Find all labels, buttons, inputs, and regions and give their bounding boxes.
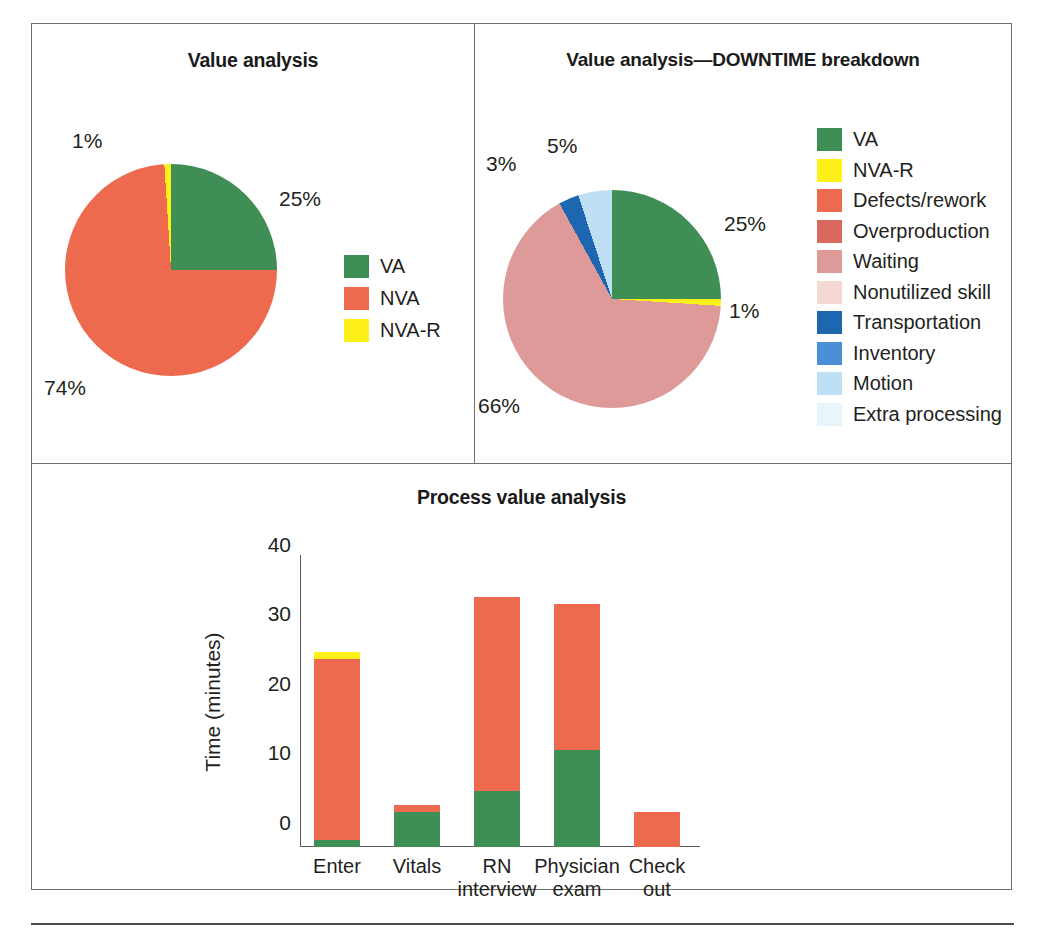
bar-segment-va bbox=[314, 840, 360, 847]
legend-item-label: Motion bbox=[853, 372, 913, 395]
legend-value-analysis-item: NVA bbox=[344, 287, 441, 310]
legend-swatch-icon bbox=[817, 159, 842, 182]
legend-downtime-item: Extra processing bbox=[817, 403, 1002, 426]
legend-downtime: VANVA-RDefects/reworkOverproductionWaiti… bbox=[817, 128, 1002, 433]
panel-downtime-breakdown: Value analysis—DOWNTIME breakdown 3%5%25… bbox=[475, 24, 1011, 463]
y-axis-tick-label: 0 bbox=[279, 811, 291, 835]
legend-value-analysis-item: NVA-R bbox=[344, 319, 441, 342]
legend-swatch-icon bbox=[817, 403, 842, 426]
pie-label-downtime-2: 25% bbox=[724, 212, 766, 236]
figure-frame: Value analysis 1%25%74% VANVANVA-R Value… bbox=[31, 23, 1012, 890]
legend-swatch-icon bbox=[817, 311, 842, 334]
bar-segment-nva bbox=[394, 805, 440, 812]
legend-item-label: NVA-R bbox=[853, 159, 914, 182]
legend-swatch-icon bbox=[817, 128, 842, 151]
downtime-title: Value analysis—DOWNTIME breakdown bbox=[475, 49, 1011, 71]
legend-item-label: NVA-R bbox=[380, 319, 441, 342]
y-axis-tick-label: 10 bbox=[268, 741, 291, 765]
bar-segment-nva bbox=[554, 604, 600, 750]
legend-item-label: Waiting bbox=[853, 250, 919, 273]
pie-label-downtime-4: 66% bbox=[478, 394, 520, 418]
legend-downtime-item: Overproduction bbox=[817, 220, 1002, 243]
legend-item-label: Overproduction bbox=[853, 220, 990, 243]
legend-value-analysis-item: VA bbox=[344, 255, 441, 278]
y-axis-label: Time (minutes) bbox=[201, 632, 225, 771]
pie-label-downtime-3: 1% bbox=[729, 299, 759, 323]
y-axis-tick-label: 40 bbox=[268, 533, 291, 557]
legend-item-label: NVA bbox=[380, 287, 420, 310]
legend-downtime-item: Inventory bbox=[817, 342, 1002, 365]
bottom-rule bbox=[31, 923, 1014, 925]
legend-swatch-icon bbox=[817, 342, 842, 365]
pie-label-value-analysis-2: 74% bbox=[44, 376, 86, 400]
legend-downtime-item: Defects/rework bbox=[817, 189, 1002, 212]
legend-item-label: Nonutilized skill bbox=[853, 281, 991, 304]
legend-downtime-item: NVA-R bbox=[817, 159, 1002, 182]
legend-downtime-item: Motion bbox=[817, 372, 1002, 395]
bar-rn-interview: RNinterview bbox=[474, 597, 520, 847]
legend-swatch-icon bbox=[344, 255, 369, 278]
y-axis-tick-label: 20 bbox=[268, 672, 291, 696]
pie-label-downtime-0: 3% bbox=[486, 152, 516, 176]
value-analysis-title: Value analysis bbox=[32, 49, 474, 72]
bar-segment-va bbox=[474, 791, 520, 847]
pie-chart-value-analysis bbox=[65, 164, 277, 376]
legend-downtime-item: Waiting bbox=[817, 250, 1002, 273]
process-value-analysis-title: Process value analysis bbox=[32, 486, 1011, 509]
legend-swatch-icon bbox=[817, 220, 842, 243]
panel-value-analysis: Value analysis 1%25%74% VANVANVA-R bbox=[32, 24, 474, 463]
pie-chart-downtime bbox=[503, 190, 721, 408]
bar-segment-nva bbox=[314, 659, 360, 840]
legend-swatch-icon bbox=[817, 189, 842, 212]
legend-swatch-icon bbox=[344, 287, 369, 310]
bar-segment-nva-r bbox=[314, 652, 360, 659]
legend-downtime-item: Nonutilized skill bbox=[817, 281, 1002, 304]
plot-area: 010203040EnterVitalsRNinterviewPhysician… bbox=[300, 555, 735, 847]
pie-label-downtime-1: 5% bbox=[547, 134, 577, 158]
bar-segment-va bbox=[394, 812, 440, 847]
legend-item-label: VA bbox=[853, 128, 878, 151]
legend-swatch-icon bbox=[344, 319, 369, 342]
x-axis-tick-label: Checkout bbox=[602, 855, 712, 901]
bar-physician-exam: Physicianexam bbox=[554, 604, 600, 847]
legend-swatch-icon bbox=[817, 250, 842, 273]
y-axis-tick-label: 30 bbox=[268, 602, 291, 626]
panel-process-value-analysis: Process value analysis Time (minutes) 01… bbox=[32, 464, 1011, 890]
legend-value-analysis: VANVANVA-R bbox=[344, 255, 441, 351]
y-axis-line bbox=[300, 555, 301, 847]
legend-item-label: VA bbox=[380, 255, 405, 278]
bar-segment-nva bbox=[474, 597, 520, 792]
bar-chart-process-value-analysis: Time (minutes) 010203040EnterVitalsRNint… bbox=[265, 555, 735, 848]
pie-label-value-analysis-0: 1% bbox=[72, 129, 102, 153]
legend-swatch-icon bbox=[817, 281, 842, 304]
pie-label-value-analysis-1: 25% bbox=[279, 187, 321, 211]
legend-downtime-item: VA bbox=[817, 128, 1002, 151]
bar-vitals: Vitals bbox=[394, 805, 440, 847]
bar-enter: Enter bbox=[314, 652, 360, 847]
legend-downtime-item: Transportation bbox=[817, 311, 1002, 334]
legend-item-label: Inventory bbox=[853, 342, 935, 365]
legend-swatch-icon bbox=[817, 372, 842, 395]
legend-item-label: Transportation bbox=[853, 311, 981, 334]
bar-segment-va bbox=[554, 750, 600, 847]
bar-check-out: Checkout bbox=[634, 812, 680, 847]
legend-item-label: Defects/rework bbox=[853, 189, 986, 212]
legend-item-label: Extra processing bbox=[853, 403, 1002, 426]
bar-segment-nva bbox=[634, 812, 680, 847]
